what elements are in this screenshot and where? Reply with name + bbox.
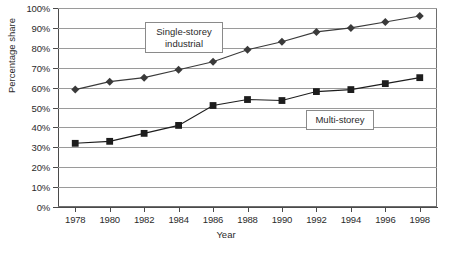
data-point-multi-storey — [382, 80, 389, 87]
chart-container: Percentage share 0%10%20%30%40%50%60%70%… — [0, 0, 452, 262]
data-point-single-storey — [347, 24, 355, 32]
data-point-multi-storey — [313, 88, 320, 95]
data-point-single-storey — [106, 78, 114, 86]
data-point-single-storey — [140, 74, 148, 82]
data-point-multi-storey — [72, 140, 79, 147]
data-point-multi-storey — [244, 96, 251, 103]
series-layer — [0, 0, 452, 262]
data-point-single-storey — [71, 86, 79, 94]
data-point-single-storey — [278, 38, 286, 46]
data-point-multi-storey — [141, 130, 148, 137]
data-point-single-storey — [312, 28, 320, 36]
annotation-multi-storey: Multi-storey — [306, 110, 374, 130]
data-point-single-storey — [416, 12, 424, 20]
data-point-multi-storey — [106, 138, 113, 145]
data-point-multi-storey — [175, 122, 182, 129]
data-point-single-storey — [244, 46, 252, 54]
data-point-multi-storey — [347, 86, 354, 93]
data-point-multi-storey — [279, 97, 286, 104]
data-point-single-storey — [175, 66, 183, 74]
data-point-multi-storey — [416, 74, 423, 81]
data-point-multi-storey — [210, 102, 217, 109]
annotation-single-storey: Single-storey industrial — [145, 22, 223, 53]
data-point-single-storey — [381, 18, 389, 26]
data-point-single-storey — [209, 58, 217, 66]
